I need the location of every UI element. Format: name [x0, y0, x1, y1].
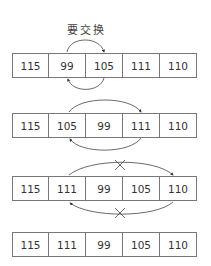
swap-arrows [0, 0, 211, 266]
arrow-top [67, 40, 104, 52]
arrow-bottom [70, 202, 173, 214]
arrow-bottom [68, 78, 104, 89]
cross-icon [115, 208, 125, 218]
arrow-top [69, 100, 141, 112]
cross-icon [115, 160, 125, 170]
arrow-bottom [70, 138, 141, 150]
